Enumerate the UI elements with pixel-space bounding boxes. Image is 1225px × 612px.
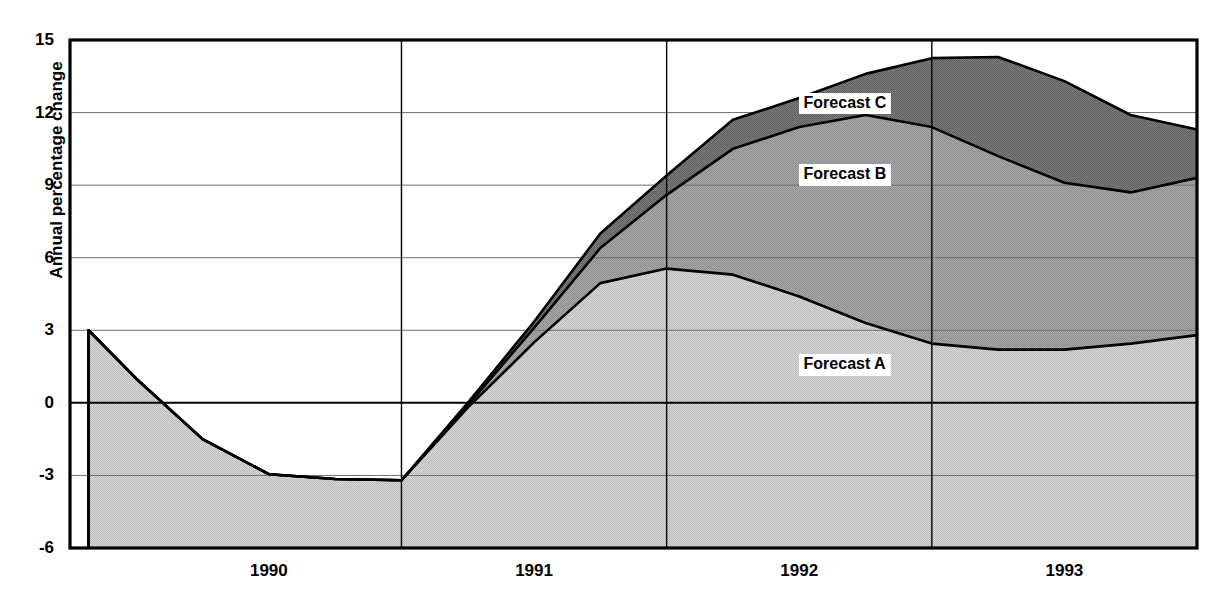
chart-figure: Annual percentage change 15129630-3-6 19… — [0, 0, 1225, 612]
plot-canvas — [0, 0, 1225, 612]
cropped-title-fragment — [28, 0, 728, 14]
y-tick-neg6: -6 — [8, 539, 54, 556]
x-tick-1991: 1991 — [489, 561, 579, 581]
y-tick-12: 12 — [8, 104, 54, 121]
series-label-forecast-c: Forecast C — [799, 93, 892, 114]
area-bands — [89, 57, 1197, 548]
y-tick-neg3: -3 — [8, 466, 54, 483]
x-tick-1993: 1993 — [1019, 561, 1109, 581]
y-tick-15: 15 — [8, 31, 54, 48]
x-tick-1992: 1992 — [754, 561, 844, 581]
series-label-forecast-b: Forecast B — [799, 164, 892, 185]
y-tick-3: 3 — [8, 321, 54, 338]
y-axis-title: Annual percentage change — [47, 5, 67, 335]
x-tick-1990: 1990 — [224, 561, 314, 581]
y-tick-0: 0 — [8, 394, 54, 411]
series-label-forecast-a: Forecast A — [799, 354, 891, 375]
y-tick-6: 6 — [8, 249, 54, 266]
y-tick-9: 9 — [8, 176, 54, 193]
